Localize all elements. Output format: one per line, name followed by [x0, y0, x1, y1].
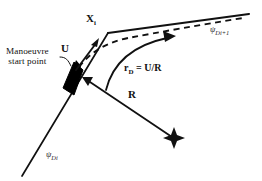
inbound-track-label: ψDi — [46, 150, 58, 161]
manoeuvre-start-point-label: Manoeuvre start point — [6, 46, 49, 67]
outbound-track-label: ψDi+1 — [210, 25, 229, 36]
turn-direction-arrow — [106, 31, 176, 90]
speed-label: U — [61, 42, 69, 54]
callout-leader-line — [60, 57, 71, 66]
radius-line — [82, 77, 172, 137]
manoeuvre-start-point-line1: Manoeuvre — [6, 46, 49, 56]
manoeuvre-diagram: Manoeuvre start point Xi U R rD = U/R ψD… — [0, 0, 262, 181]
inbound-track-subscript: Di — [51, 154, 57, 161]
radius-label: R — [128, 88, 136, 100]
outbound-track-subscript: Di+1 — [215, 29, 229, 36]
manoeuvre-start-point-line2: start point — [6, 56, 49, 66]
turn-rate-equation-label: rD = U/R — [124, 62, 161, 77]
waypoint-label: Xi — [86, 12, 96, 28]
waypoint-symbol: X — [86, 12, 94, 24]
turn-rate-expression: = U/R — [134, 62, 162, 73]
turn-center-cross — [163, 127, 185, 149]
waypoint-subscript: i — [94, 19, 96, 27]
